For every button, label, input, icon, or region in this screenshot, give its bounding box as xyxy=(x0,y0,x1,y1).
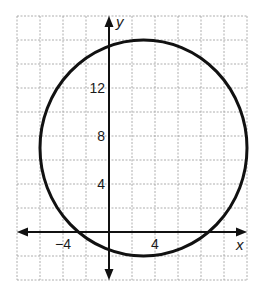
plotted-curves xyxy=(40,40,247,256)
grid-lines xyxy=(17,16,247,280)
x-axis-arrow-left-icon xyxy=(17,228,28,237)
y-tick-label: 12 xyxy=(89,80,105,96)
x-tick-label: −4 xyxy=(55,236,71,252)
y-tick-label: 4 xyxy=(97,176,105,192)
y-axis-arrow-up-icon xyxy=(105,16,114,27)
y-axis-arrow-down-icon xyxy=(105,269,114,280)
coordinate-plane: −444812 x y xyxy=(0,0,255,285)
x-axis-label: x xyxy=(235,236,244,253)
y-axis-label: y xyxy=(115,13,125,30)
y-tick-label: 8 xyxy=(97,128,105,144)
circle-curve xyxy=(40,40,247,256)
x-tick-label: 4 xyxy=(151,236,159,252)
